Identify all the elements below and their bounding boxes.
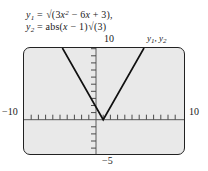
- equation-y2: y2 = abs(x − 1)√(3): [26, 20, 106, 34]
- equation-y2-close-paren-2: ): [103, 21, 107, 32]
- curve-y1-y2: [62, 48, 144, 120]
- radical-icon: √: [46, 8, 51, 20]
- x-axis-max-label: 10: [189, 106, 199, 117]
- equation-y1-equals: =: [37, 9, 43, 20]
- radical-icon: √: [88, 20, 93, 32]
- plot-svg: [24, 48, 184, 154]
- curve-legend-label: y1, y2: [147, 33, 167, 45]
- equation-y2-minus: −: [70, 21, 76, 32]
- equation-y1-exponent: 2: [65, 9, 69, 17]
- equation-y1-minus: −: [72, 9, 78, 20]
- equation-y2-subscript: 2: [31, 26, 35, 34]
- y-axis-max-label: 10: [104, 33, 114, 44]
- y-axis-min-label: −5: [102, 155, 113, 166]
- figure-container: y1 = √(3x2 − 6x + 3), y2 = abs(x − 1)√(3…: [0, 0, 208, 171]
- equation-y2-equals: =: [37, 21, 43, 32]
- graphing-calculator-screen: [23, 47, 185, 155]
- plot-area: [24, 48, 184, 154]
- equation-y2-close-paren: ): [84, 21, 88, 32]
- equation-y2-variable: x: [63, 21, 68, 32]
- equation-y1-term2-variable: x: [85, 9, 90, 20]
- equation-y2-abs-function: abs: [46, 21, 60, 32]
- equation-y1-comma: ,: [110, 9, 113, 20]
- curve-legend-sub2: 2: [163, 37, 167, 45]
- equation-y1-plus: +: [93, 9, 99, 20]
- x-axis-min-label: −10: [2, 106, 18, 117]
